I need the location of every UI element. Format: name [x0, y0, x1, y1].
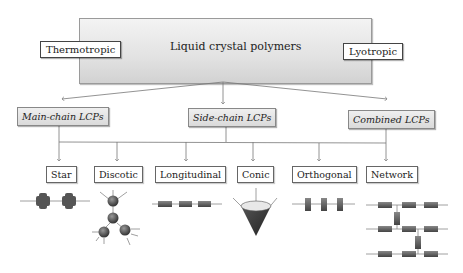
star-mesogen-icon — [20, 193, 90, 209]
connector-lines — [0, 0, 463, 273]
type-conic: Conic — [237, 166, 274, 183]
type-star: Star — [46, 166, 77, 183]
type-network: Network — [366, 166, 418, 183]
category-side-chain: Side-chain LCPs — [188, 108, 276, 127]
type-longitudinal: Longitudinal — [155, 166, 226, 183]
category-main-chain: Main-chain LCPs — [17, 107, 109, 126]
longitudinal-mesogen-icon — [152, 201, 222, 207]
category-combined: Combined LCPs — [348, 110, 435, 129]
network-mesogen-icon — [366, 202, 448, 257]
orthogonal-mesogen-icon — [292, 198, 355, 211]
type-discotic: Discotic — [94, 166, 143, 183]
type-orthogonal: Orthogonal — [292, 166, 357, 183]
conic-mesogen-icon — [233, 188, 277, 236]
discotic-mesogen-icon — [92, 190, 140, 245]
